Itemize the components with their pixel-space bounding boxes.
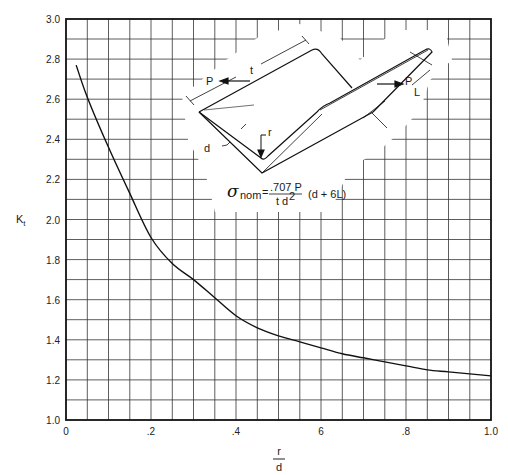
svg-text:r: r bbox=[277, 445, 281, 457]
x-axis-label: r d bbox=[273, 445, 285, 473]
y-tick-label: 1.4 bbox=[46, 335, 60, 346]
y-axis-label: Kt bbox=[16, 213, 26, 228]
svg-text:=: = bbox=[262, 186, 268, 198]
y-tick-label: 1.8 bbox=[46, 255, 60, 266]
x-axis-ticks: 0.2.46.81.0 bbox=[63, 426, 498, 437]
x-tick-label: .4 bbox=[232, 426, 241, 437]
y-tick-label: 2.8 bbox=[46, 54, 60, 65]
x-tick-label: 6 bbox=[318, 426, 324, 437]
svg-text:r: r bbox=[268, 126, 272, 138]
y-tick-label: 2.6 bbox=[46, 94, 60, 105]
svg-text:.707 P: .707 P bbox=[270, 181, 302, 193]
y-tick-label: 1.6 bbox=[46, 295, 60, 306]
svg-text:d: d bbox=[204, 142, 210, 154]
inset-background bbox=[182, 24, 452, 212]
svg-text:P: P bbox=[206, 75, 213, 87]
x-tick-label: 1.0 bbox=[484, 426, 498, 437]
x-tick-label: .8 bbox=[402, 426, 411, 437]
y-tick-label: 1.0 bbox=[46, 415, 60, 426]
svg-text:d: d bbox=[276, 461, 282, 473]
y-tick-label: 1.2 bbox=[46, 375, 60, 386]
svg-text:t: t bbox=[250, 64, 253, 76]
svg-text:d: d bbox=[282, 195, 288, 207]
svg-text:(d + 6L): (d + 6L) bbox=[308, 188, 346, 200]
svg-text:σ: σ bbox=[227, 181, 239, 201]
svg-text:L: L bbox=[414, 86, 420, 98]
svg-text:P: P bbox=[405, 75, 412, 87]
y-tick-label: 2.2 bbox=[46, 174, 60, 185]
y-tick-label: 2.4 bbox=[46, 134, 60, 145]
svg-text:nom: nom bbox=[240, 189, 261, 201]
x-tick-label: .2 bbox=[147, 426, 156, 437]
svg-text:t: t bbox=[276, 195, 279, 207]
y-tick-label: 2.0 bbox=[46, 215, 60, 226]
y-tick-label: 3.0 bbox=[46, 14, 60, 25]
svg-text:2: 2 bbox=[289, 190, 295, 202]
y-axis-ticks: 1.01.21.41.61.82.02.22.42.62.83.0 bbox=[46, 14, 60, 426]
x-tick-label: 0 bbox=[63, 426, 69, 437]
chart: 1.01.21.41.61.82.02.22.42.62.83.0 0.2.46… bbox=[0, 0, 508, 475]
